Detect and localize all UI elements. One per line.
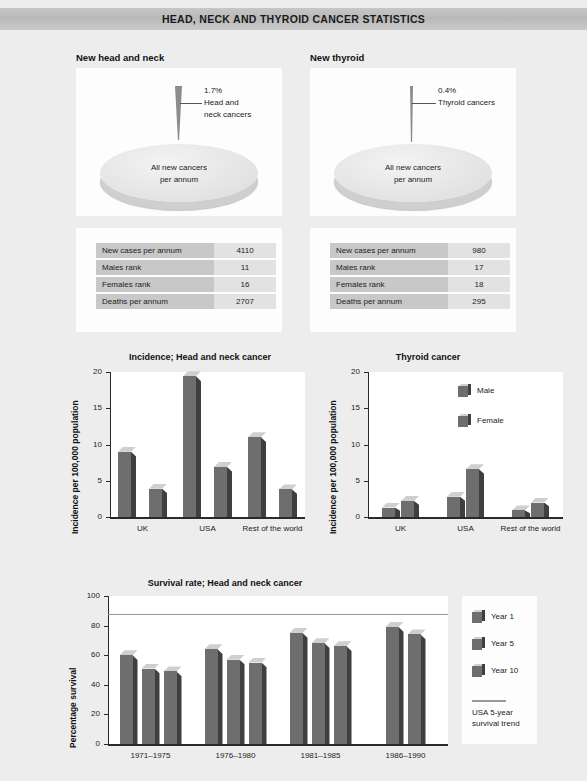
y-axis-tick (106, 481, 110, 482)
legend-swatch-front (458, 416, 468, 427)
pie-chart-thyroid: All new cancers per annum (334, 126, 492, 196)
stat-value: 11 (214, 260, 276, 275)
stat-key: New cases per annum (96, 243, 214, 258)
y-axis-tick-label: 20 (336, 367, 360, 376)
legend-item-year-1: Year 1 (472, 610, 514, 623)
y-axis-tick-label: 60 (76, 650, 100, 659)
x-axis-category-label: Rest of the world (240, 524, 305, 533)
usa-survival-trend-line (108, 614, 448, 616)
bar-front-face (142, 669, 155, 744)
x-axis-category-label: 1971–1975 (108, 751, 193, 760)
bar (205, 644, 223, 744)
chart-title: Survival rate; Head and neck cancer (100, 578, 350, 588)
x-axis-category-label: Rest of the world (498, 524, 563, 533)
bar-front-face (118, 452, 131, 517)
bar (334, 641, 352, 744)
pie-title-head-neck: New head and neck (76, 52, 164, 63)
chart-incidence-head-neck: Incidence; Head and neck cancer Incidenc… (60, 352, 320, 567)
stat-value: 2707 (214, 294, 276, 309)
x-axis-category-label: 1981–1985 (278, 751, 363, 760)
pie-leader-head-neck (180, 103, 202, 104)
stats-table-head-neck: New cases per annum 4110 Males rank 11 F… (96, 243, 276, 311)
bar (149, 484, 167, 517)
y-axis-tick (104, 626, 108, 627)
y-axis-tick-label: 20 (78, 367, 102, 376)
bar-front-face (279, 489, 292, 517)
legend-swatch-side (482, 664, 485, 675)
stat-value: 17 (448, 260, 510, 275)
legend-item-male: Male (458, 384, 494, 397)
x-axis-category-label: UK (368, 524, 433, 533)
bar (408, 629, 426, 744)
bar-side-face (325, 643, 330, 744)
stat-value: 18 (448, 277, 510, 292)
legend-label: Male (477, 386, 494, 395)
stat-value: 295 (448, 294, 510, 309)
bar-side-face (399, 627, 404, 744)
bar (401, 496, 419, 517)
legend-swatch-side (468, 384, 471, 395)
pie-base-label-thyroid: All new cancers per annum (334, 162, 492, 186)
legend-label: Year 10 (491, 666, 518, 675)
bar-front-face (214, 467, 227, 517)
y-axis-tick (106, 517, 110, 518)
bar-side-face (177, 671, 182, 744)
bar-side-face (544, 503, 549, 518)
x-axis-category-label: 1986–1990 (363, 751, 448, 760)
legend-trend-line-swatch (472, 700, 506, 702)
bar-front-face (447, 497, 460, 517)
stat-key: New cases per annum (330, 243, 448, 258)
stat-key: Females rank (330, 277, 448, 292)
bar-front-face (512, 510, 525, 517)
stats-table-thyroid: New cases per annum 980 Males rank 17 Fe… (330, 243, 510, 311)
y-axis (368, 372, 369, 517)
bar (248, 432, 266, 517)
y-axis-tick-label: 0 (336, 512, 360, 521)
y-axis-tick-label: 15 (336, 403, 360, 412)
legend-swatch-side (468, 414, 471, 425)
legend-label: Year 1 (491, 612, 514, 621)
bar (531, 498, 549, 518)
y-axis-tick (104, 714, 108, 715)
y-axis-tick (106, 408, 110, 409)
y-axis-tick-label: 20 (76, 709, 100, 718)
infographic-page: HEAD, NECK AND THYROID CANCER STATISTICS… (0, 0, 587, 781)
bar-side-face (227, 467, 232, 517)
bar-front-face (205, 649, 218, 744)
y-axis-tick-label: 5 (78, 476, 102, 485)
y-axis-tick-label: 80 (76, 621, 100, 630)
x-axis (368, 517, 563, 519)
y-axis-tick-label: 5 (336, 476, 360, 485)
legend-swatch-2 (472, 664, 485, 677)
pie-callout-head-neck: 1.7% Head and neck cancers (204, 85, 251, 121)
chart-title: Thyroid cancer (338, 352, 518, 362)
y-axis-tick (104, 685, 108, 686)
bar-side-face (460, 497, 465, 517)
bar-front-face (312, 643, 325, 744)
bar-front-face (531, 503, 544, 518)
bar-side-face (240, 660, 245, 744)
pie-panel-head-neck: All new cancers per annum 1.7% Head and … (76, 68, 282, 216)
bar (120, 650, 138, 744)
stat-key: Females rank (96, 277, 214, 292)
x-axis-category-label: 1976–1980 (193, 751, 278, 760)
bar-side-face (347, 646, 352, 744)
chart-title: Incidence; Head and neck cancer (90, 352, 310, 362)
plot-area (110, 372, 305, 517)
y-axis-tick (104, 655, 108, 656)
bar-side-face (133, 655, 138, 744)
bar-front-face (401, 501, 414, 517)
page-title: HEAD, NECK AND THYROID CANCER STATISTICS (162, 13, 425, 25)
x-axis (108, 744, 448, 746)
table-row: New cases per annum 980 (330, 243, 510, 258)
legend-item-year-5: Year 5 (472, 637, 514, 650)
bar (183, 371, 201, 517)
bar (382, 503, 400, 517)
legend-swatch-front (472, 666, 482, 677)
bar-side-face (421, 634, 426, 744)
y-axis-tick (364, 408, 368, 409)
bar (227, 655, 245, 744)
x-axis-category-label: USA (433, 524, 498, 533)
table-row: Females rank 18 (330, 277, 510, 292)
stat-key: Deaths per annum (96, 294, 214, 309)
